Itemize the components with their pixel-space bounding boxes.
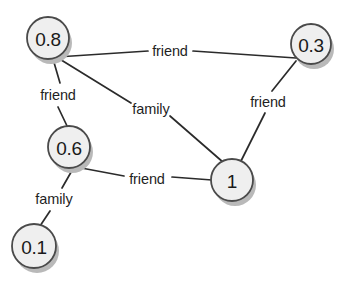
node-03-label: 0.3 (298, 35, 324, 56)
node-01-label: 0.1 (21, 237, 47, 258)
edge-segment-family-08-1-b (170, 116, 224, 163)
node-08-label: 0.8 (35, 29, 61, 50)
node-08[interactable]: 0.8 (27, 17, 72, 64)
edge-label-friend-08-06: friend (40, 87, 76, 103)
edge-label-friend-08-03: friend (152, 43, 188, 59)
node-06-label: 0.6 (56, 138, 82, 159)
edge-segment-family-06-01-b (40, 211, 50, 226)
node-03[interactable]: 0.3 (291, 24, 334, 69)
edge-segment-friend-03-1-a (272, 61, 296, 91)
edge-label-family-06-01: family (35, 191, 73, 207)
node-1[interactable]: 1 (211, 159, 256, 206)
edge-segment-friend-03-1-b (241, 113, 265, 161)
edge-label-friend-03-1: friend (250, 94, 286, 110)
graph-diagram: friend friend family friend friend famil… (0, 0, 354, 289)
edge-segment-friend-08-03-b (193, 51, 296, 58)
edge-segment-friend-08-06-b (58, 107, 68, 128)
node-06[interactable]: 0.6 (48, 126, 93, 173)
graph-canvas: friend friend family friend friend famil… (0, 0, 354, 289)
node-01[interactable]: 0.1 (12, 224, 59, 273)
edge-segment-friend-06-1-b (172, 177, 212, 180)
edge-label-friend-06-1: friend (129, 171, 165, 187)
edge-label-family-08-1: family (132, 101, 170, 117)
node-1-label: 1 (227, 171, 237, 192)
edge-segment-friend-08-03-a (57, 51, 148, 57)
